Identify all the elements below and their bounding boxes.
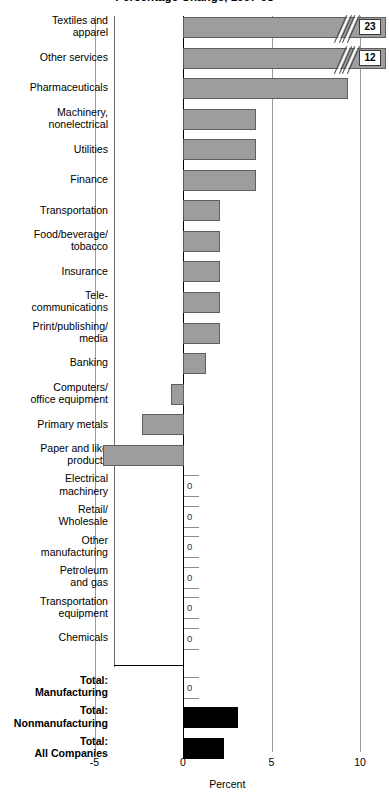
- zero-tick-bottom-19: [184, 618, 199, 619]
- bar-8[interactable]: [183, 261, 220, 282]
- zero-tick-bottom-21: [184, 698, 199, 699]
- bar-5[interactable]: [183, 170, 256, 191]
- plot-area: Textiles and apparel23Other services12Ph…: [0, 0, 389, 805]
- zero-value-label-19: 0: [187, 602, 192, 613]
- bar-10[interactable]: [183, 323, 220, 344]
- x-axis-label: Percent: [187, 778, 267, 790]
- zero-tick-top-18: [184, 567, 199, 568]
- bar-0[interactable]: [183, 17, 386, 38]
- zero-value-label-20: 0: [187, 633, 192, 644]
- bar-6[interactable]: [183, 200, 220, 221]
- x-tick-label-5: 5: [257, 756, 287, 768]
- bar-12[interactable]: [171, 384, 184, 405]
- row-label-9: Tele- communications: [31, 289, 108, 314]
- bar-9[interactable]: [183, 292, 220, 313]
- chart-container: Percentage Change, 1997-98 Textiles and …: [0, 0, 389, 805]
- row-label-0: Textiles and apparel: [52, 14, 108, 39]
- x-tick-label-0: 0: [168, 756, 198, 768]
- row-label-8: Insurance: [61, 265, 108, 277]
- row-label-3: Machinery, nonelectrical: [49, 106, 108, 131]
- zero-tick-top-20: [184, 628, 199, 629]
- totals-separator: [114, 665, 184, 666]
- row-label-20: Chemicals: [59, 631, 108, 643]
- row-label-10: Print/publishing/ media: [33, 320, 108, 345]
- bar-11[interactable]: [183, 353, 206, 374]
- row-label-2: Pharmaceuticals: [30, 81, 108, 93]
- zero-tick-bottom-20: [184, 649, 199, 650]
- bar-14[interactable]: [103, 445, 184, 466]
- category-divider: [114, 16, 115, 667]
- row-label-22: Total: Nonmanufacturing: [14, 704, 108, 729]
- bar-22[interactable]: [183, 707, 238, 728]
- row-label-14: Paper and like products: [40, 442, 108, 467]
- zero-value-label-15: 0: [187, 480, 192, 491]
- row-label-6: Transportation: [40, 204, 108, 216]
- bar-13[interactable]: [142, 414, 184, 435]
- zero-value-label-16: 0: [187, 511, 192, 522]
- zero-tick-bottom-17: [184, 557, 199, 558]
- row-label-12: Computers/ office equipment: [30, 381, 108, 406]
- bar-7[interactable]: [183, 231, 220, 252]
- row-label-4: Utilities: [74, 143, 108, 155]
- bar-3[interactable]: [183, 109, 256, 130]
- zero-tick-bottom-15: [184, 496, 199, 497]
- bar-2[interactable]: [183, 78, 348, 99]
- zero-tick-top-19: [184, 597, 199, 598]
- row-label-15: Electrical machinery: [59, 472, 108, 497]
- row-label-7: Food/beverage/ tobacco: [34, 228, 108, 253]
- row-label-16: Retail/ Wholesale: [59, 503, 108, 528]
- zero-tick-top-17: [184, 536, 199, 537]
- gridline-10: [360, 16, 361, 752]
- row-label-11: Banking: [70, 356, 108, 368]
- zero-tick-top-15: [184, 475, 199, 476]
- gridline-5: [272, 16, 273, 752]
- zero-value-label-21: 0: [187, 682, 192, 693]
- row-label-19: Transportation equipment: [40, 595, 108, 620]
- row-label-18: Petroleum and gas: [60, 564, 108, 589]
- row-label-1: Other services: [40, 51, 108, 63]
- row-label-13: Primary metals: [37, 418, 108, 430]
- zero-tick-top-16: [184, 506, 199, 507]
- row-label-17: Other manufacturing: [41, 534, 108, 559]
- value-label-1: 12: [359, 50, 381, 66]
- zero-value-label-18: 0: [187, 572, 192, 583]
- zero-value-label-17: 0: [187, 541, 192, 552]
- zero-tick-top-21: [184, 677, 199, 678]
- x-tick-label--5: -5: [80, 756, 110, 768]
- zero-tick-bottom-18: [184, 588, 199, 589]
- zero-tick-bottom-16: [184, 527, 199, 528]
- x-tick-label-10: 10: [345, 756, 375, 768]
- row-label-5: Finance: [70, 173, 108, 185]
- row-label-21: Total: Manufacturing: [35, 674, 108, 699]
- bar-1[interactable]: [183, 48, 386, 69]
- bar-4[interactable]: [183, 139, 256, 160]
- value-label-0: 23: [359, 19, 381, 35]
